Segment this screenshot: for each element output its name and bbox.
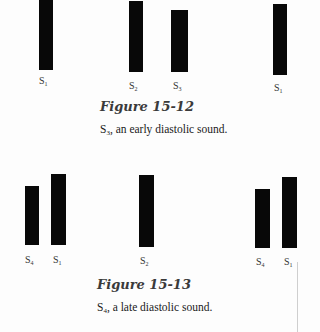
- figure-caption: S3, an early diastolic sound.: [100, 123, 227, 137]
- caption-text: , a late diastolic sound.: [107, 301, 212, 313]
- s4-label-next: S4: [256, 256, 265, 268]
- label-sub: 2: [146, 261, 149, 267]
- label-sub: 3: [179, 86, 182, 92]
- figure-caption: S4, a late diastolic sound.: [97, 301, 212, 315]
- page-edge-line: [297, 262, 298, 332]
- s4-bar: [25, 186, 39, 245]
- s2-bar: [139, 175, 154, 247]
- s2-bar: [129, 1, 143, 72]
- s1-label: S1: [53, 254, 62, 266]
- s4-label: S4: [25, 254, 34, 266]
- figure-title: Figure 15-12: [100, 99, 194, 114]
- label-sub: 4: [31, 260, 34, 266]
- s2-label: S2: [129, 80, 138, 92]
- label-sub: 1: [59, 260, 62, 266]
- s4-bar-next: [255, 189, 270, 248]
- s1-label-next: S1: [284, 256, 293, 268]
- s1-bar-next: [273, 4, 287, 75]
- label-sub: 2: [135, 86, 138, 92]
- label-sub: 4: [262, 262, 265, 268]
- label-sub: 1: [280, 88, 283, 94]
- label-sub: 1: [290, 262, 293, 268]
- s1-bar-next: [282, 177, 297, 248]
- s1-label: S1: [39, 75, 48, 87]
- s1-label-next: S1: [274, 82, 283, 94]
- s3-label: S3: [173, 80, 182, 92]
- caption-text: , an early diastolic sound.: [110, 123, 228, 135]
- s1-bar: [39, 0, 53, 70]
- s2-label: S2: [140, 255, 149, 267]
- figure-title: Figure 15-13: [97, 277, 191, 292]
- s1-bar: [51, 174, 66, 245]
- label-sub: 1: [45, 81, 48, 87]
- s3-bar: [171, 10, 188, 72]
